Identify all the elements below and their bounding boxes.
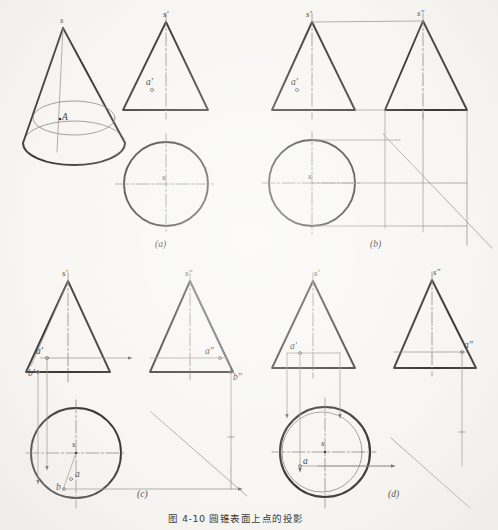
panel-a-pictorial-cone: [23, 28, 125, 165]
panel-b-front-apex-label: s': [306, 10, 311, 19]
panel-c-front-view: [26, 273, 132, 382]
panel-a-top-center-label: s: [162, 173, 166, 182]
panel-c-front-point-a-label: a': [36, 347, 43, 357]
panel-d-top-center-label: s: [321, 439, 325, 448]
panel-a-top-view: [116, 134, 216, 234]
panel-d-projection-lines: [287, 352, 470, 508]
panel-d-side-point-label: a″: [464, 341, 473, 351]
panel-label-c: (c): [137, 490, 148, 500]
panel-b-side-apex-label: s″: [417, 9, 424, 18]
panel-c-top-center-label: s: [72, 440, 76, 449]
panel-label-d: (d): [388, 490, 399, 500]
panel-a-front-view: [123, 13, 208, 119]
technical-drawing-canvas: [0, 0, 498, 530]
panel-c-projection-lines: [38, 358, 247, 496]
panel-c-top-point-b-label: b: [56, 483, 61, 493]
panel-d-side-apex-label: s″: [433, 268, 440, 277]
panel-d-front-apex-label: s': [314, 269, 319, 278]
panel-b-front-view: [272, 13, 355, 119]
panel-c-front-apex-label: s': [62, 269, 67, 278]
panel-d-front-view: [272, 273, 355, 378]
panel-c-side-point-a-label: a″: [205, 347, 214, 357]
panel-c-top-view: [26, 400, 126, 508]
panel-c-side-apex-label: s″: [185, 269, 192, 278]
panel-c-side-view: [150, 273, 233, 380]
panel-d-top-view: [272, 398, 376, 508]
panel-a-front-point-label: a': [146, 78, 153, 88]
panel-c-side-point-b-label: b″: [233, 373, 242, 383]
panel-a-front-apex-label: s': [163, 10, 168, 19]
panel-a-pictorial-apex-label: s: [60, 16, 64, 25]
panel-d-side-view: [394, 272, 476, 376]
panel-a-pictorial-point-label: A: [62, 113, 68, 123]
panel-b-top-center-label: s: [308, 172, 312, 181]
panel-b-front-point-label: a': [291, 78, 298, 88]
panel-d-front-point-label: a': [290, 342, 297, 352]
panel-c-top-point-a-label: a: [75, 470, 80, 480]
panel-d-top-point-label: a: [303, 457, 308, 467]
panel-c-front-point-b-label: b': [28, 369, 35, 379]
panel-label-a: (a): [155, 240, 166, 250]
figure-caption: 图 4-10 圆锥表面上点的投影: [168, 511, 304, 525]
panel-label-b: (b): [370, 240, 381, 250]
panel-b-projection-lines: [250, 21, 492, 248]
figure-sheet: s A s' a' s (a) s' a' s″ s (b) s' a' b' …: [0, 0, 498, 530]
panel-b-side-view: [385, 13, 467, 119]
